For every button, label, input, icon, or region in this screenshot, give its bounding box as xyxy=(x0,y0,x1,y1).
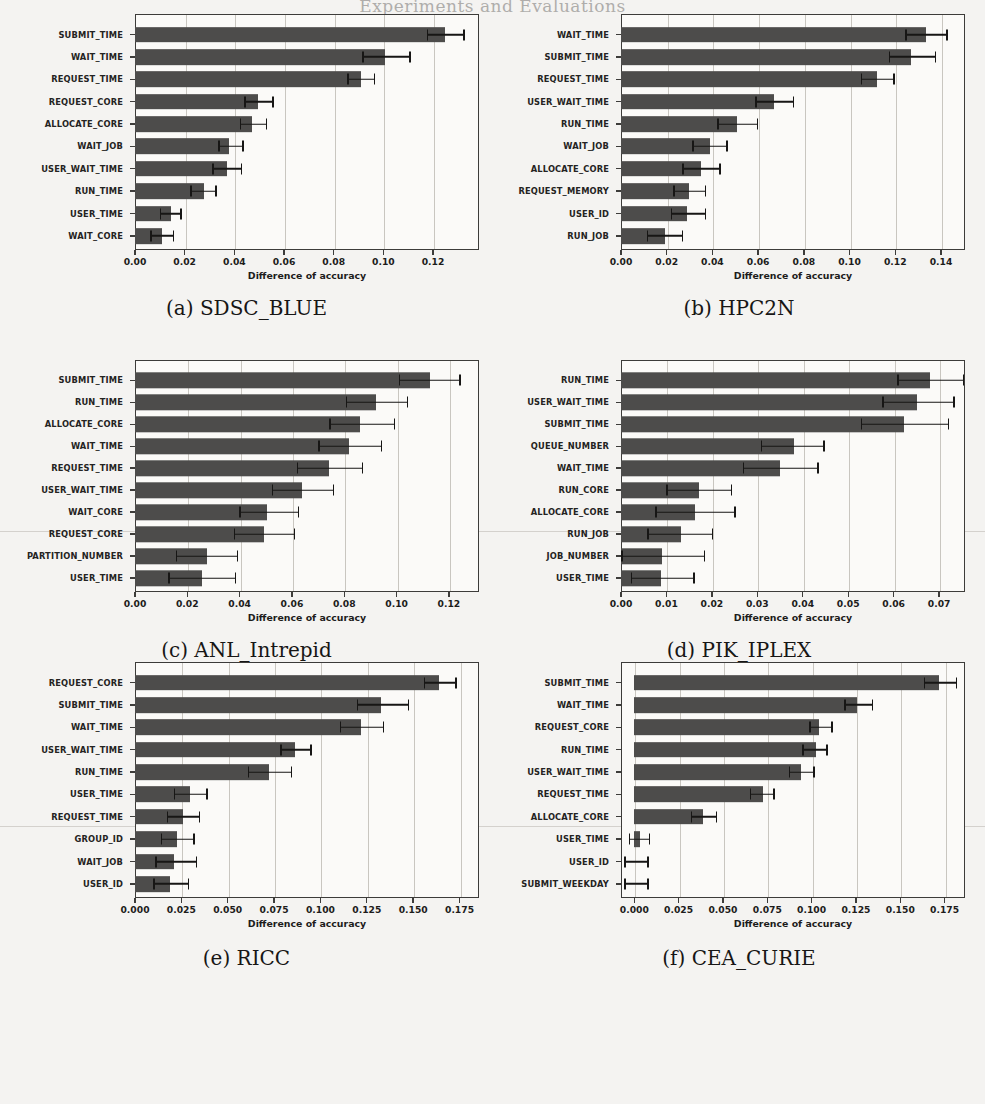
category-label: USER_TIME xyxy=(493,834,609,844)
error-bar xyxy=(692,141,728,152)
x-tick-label: 0.125 xyxy=(352,904,381,915)
bar xyxy=(634,764,800,780)
error-bar xyxy=(624,856,649,867)
error-bar xyxy=(924,677,958,688)
error-bar xyxy=(167,811,200,822)
x-tick-label: 0.075 xyxy=(260,904,289,915)
x-tick-label: 0.04 xyxy=(791,598,814,609)
error-bar xyxy=(174,789,208,800)
error-bar xyxy=(424,677,457,688)
category-label: ALLOCATE_CORE xyxy=(493,164,609,174)
bar xyxy=(135,719,361,735)
error-bar xyxy=(673,186,706,197)
x-tick-label: 0.10 xyxy=(372,256,395,267)
chart-panel-c: SUBMIT_TIMERUN_TIMEALLOCATE_COREWAIT_TIM… xyxy=(0,360,493,662)
category-label: ALLOCATE_CORE xyxy=(493,507,609,517)
chart-panel-d: RUN_TIMEUSER_WAIT_TIMESUBMIT_TIMEQUEUE_N… xyxy=(493,360,985,662)
caption-b: (b) HPC2N xyxy=(493,296,985,320)
category-label: USER_TIME xyxy=(0,573,123,583)
x-tickmark xyxy=(184,250,185,255)
x-tick-label: 0.02 xyxy=(176,598,199,609)
x-tickmark xyxy=(849,250,850,255)
category-label: REQUEST_MEMORY xyxy=(493,186,609,196)
error-bar xyxy=(691,811,718,822)
gridline-x xyxy=(940,361,941,591)
x-tick-label: 0.07 xyxy=(928,598,951,609)
gridline-x xyxy=(901,663,902,897)
x-tickmark xyxy=(634,898,635,903)
category-label: RUN_TIME xyxy=(493,745,609,755)
error-bar xyxy=(802,744,828,755)
category-label: REQUEST_TIME xyxy=(493,789,609,799)
category-label: RUN_TIME xyxy=(0,186,123,196)
error-bar xyxy=(897,375,964,386)
x-tickmark xyxy=(448,592,449,597)
category-label: USER_TIME xyxy=(493,573,609,583)
category-label: SUBMIT_TIME xyxy=(493,419,609,429)
error-bar xyxy=(621,551,705,562)
error-bar xyxy=(280,744,312,755)
error-bar xyxy=(882,397,955,408)
category-label: USER_ID xyxy=(0,879,123,889)
error-bar xyxy=(809,722,832,733)
x-tick-label: 0.000 xyxy=(620,904,649,915)
category-label: REQUEST_CORE xyxy=(493,722,609,732)
x-tickmark xyxy=(283,250,284,255)
x-tickmark xyxy=(366,898,367,903)
x-tickmark xyxy=(134,250,135,255)
bar xyxy=(621,49,911,65)
category-label: WAIT_TIME xyxy=(0,52,123,62)
bar xyxy=(135,49,385,65)
error-bar xyxy=(889,51,937,62)
error-bar xyxy=(160,208,182,219)
bar xyxy=(135,27,445,43)
category-label: WAIT_TIME xyxy=(493,30,609,40)
x-tickmark xyxy=(944,898,945,903)
category-label: RUN_CORE xyxy=(493,485,609,495)
error-bar xyxy=(155,856,197,867)
x-tickmark xyxy=(344,592,345,597)
error-bar xyxy=(750,789,775,800)
x-tick-label: 0.00 xyxy=(124,598,147,609)
caption-f: (f) CEA_CURIE xyxy=(493,946,985,970)
bar xyxy=(135,417,360,432)
bar xyxy=(135,438,349,453)
x-tickmark xyxy=(666,250,667,255)
figure-cell-b: WAIT_TIMESUBMIT_TIMEREQUEST_TIMEUSER_WAI… xyxy=(493,0,985,350)
y-tickmark xyxy=(616,838,622,839)
x-tick-label: 0.08 xyxy=(322,256,345,267)
x-tickmark xyxy=(234,250,235,255)
bar xyxy=(135,116,252,132)
gridline-x xyxy=(450,361,451,591)
category-label: USER_TIME xyxy=(0,209,123,219)
category-label: USER_WAIT_TIME xyxy=(493,767,609,777)
category-label: USER_TIME xyxy=(0,789,123,799)
error-bar xyxy=(347,74,375,85)
error-bar xyxy=(861,419,949,430)
error-bar xyxy=(239,507,299,518)
x-tickmark xyxy=(291,592,292,597)
category-label: WAIT_JOB xyxy=(0,857,123,867)
x-tick-label: 0.10 xyxy=(838,256,861,267)
category-label: WAIT_TIME xyxy=(493,700,609,710)
x-tickmark xyxy=(895,250,896,255)
category-label: RUN_TIME xyxy=(0,767,123,777)
y-tickmark xyxy=(616,794,622,795)
gridline-x xyxy=(398,361,399,591)
bar xyxy=(634,787,763,803)
error-bar xyxy=(318,441,382,452)
x-tickmark xyxy=(396,592,397,597)
x-tickmark xyxy=(757,250,758,255)
figure-cell-f: SUBMIT_TIMEWAIT_TIMEREQUEST_CORERUN_TIME… xyxy=(493,650,985,1004)
category-label: ALLOCATE_CORE xyxy=(493,812,609,822)
category-label: USER_ID xyxy=(493,209,609,219)
x-tick-label: 0.02 xyxy=(701,598,724,609)
error-bar xyxy=(168,573,236,584)
error-bar xyxy=(346,397,409,408)
category-label: WAIT_JOB xyxy=(493,141,609,151)
category-label: WAIT_TIME xyxy=(0,722,123,732)
x-tick-label: 0.050 xyxy=(213,904,242,915)
x-tick-label: 0.02 xyxy=(655,256,678,267)
bar xyxy=(634,742,816,758)
x-tick-label: 0.00 xyxy=(124,256,147,267)
